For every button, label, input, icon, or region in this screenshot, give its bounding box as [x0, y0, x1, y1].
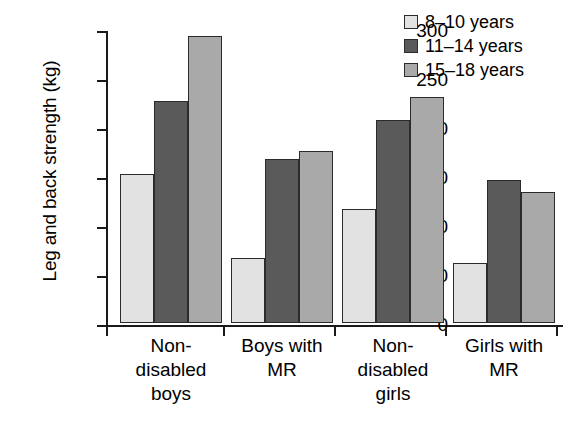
- bar: [453, 263, 487, 323]
- legend-item: 11–14 years: [404, 34, 524, 58]
- bar: [188, 36, 222, 323]
- chart-legend: 8–10 years11–14 years15–18 years: [404, 10, 524, 82]
- bar: [265, 159, 299, 323]
- y-axis-tick: [97, 80, 106, 82]
- y-axis-tick: [97, 129, 106, 131]
- legend-swatch-icon: [404, 39, 418, 53]
- y-axis-tick: [97, 178, 106, 180]
- bar-chart-figure: Leg and back strength (kg) 0501001502002…: [0, 0, 585, 432]
- y-axis-tick: [97, 31, 106, 33]
- y-axis-title: Leg and back strength (kg): [39, 11, 61, 331]
- legend-label: 8–10 years: [425, 10, 514, 34]
- legend-swatch-icon: [404, 63, 418, 77]
- legend-label: 15–18 years: [425, 58, 524, 82]
- bar: [299, 151, 333, 323]
- bar: [231, 258, 265, 323]
- y-axis-line: [106, 31, 108, 327]
- y-axis-tick: [97, 325, 106, 327]
- bar: [154, 101, 188, 323]
- legend-swatch-icon: [404, 15, 418, 29]
- legend-label: 11–14 years: [425, 34, 523, 58]
- y-axis-tick: [97, 227, 106, 229]
- legend-item: 15–18 years: [404, 58, 524, 82]
- x-axis-category-label: Girls with MR: [439, 334, 569, 382]
- bar: [487, 180, 521, 323]
- y-axis-tick: [97, 276, 106, 278]
- bar: [376, 120, 410, 323]
- legend-item: 8–10 years: [404, 10, 524, 34]
- bar: [521, 192, 555, 323]
- bar: [342, 209, 376, 323]
- bar: [410, 97, 444, 323]
- bar: [120, 174, 154, 323]
